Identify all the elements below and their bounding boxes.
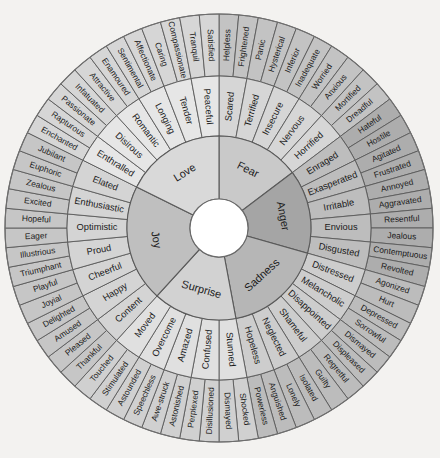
outer-label-eager: Eager — [25, 230, 48, 241]
mid-label-envious: Envious — [324, 222, 357, 232]
outer-label-resentful: Resentful — [384, 213, 420, 225]
outer-label-dismayed: Dismayed — [222, 392, 234, 430]
outer-label-helpless: Helpless — [221, 29, 232, 62]
outer-label-jealous: Jealous — [387, 230, 416, 241]
outer-label-satisfied: Satisfied — [206, 29, 217, 62]
wheel-hub — [190, 199, 248, 257]
mid-label-optimistic: Optimistic — [77, 222, 118, 232]
emotion-wheel-figure: HelplessFrightenedPanicHystericalInferio… — [0, 0, 440, 458]
outer-label-hopeful: Hopeful — [22, 213, 51, 224]
emotion-wheel-canvas: HelplessFrightenedPanicHystericalInferio… — [0, 0, 440, 458]
wheel-center-hub — [190, 199, 248, 257]
